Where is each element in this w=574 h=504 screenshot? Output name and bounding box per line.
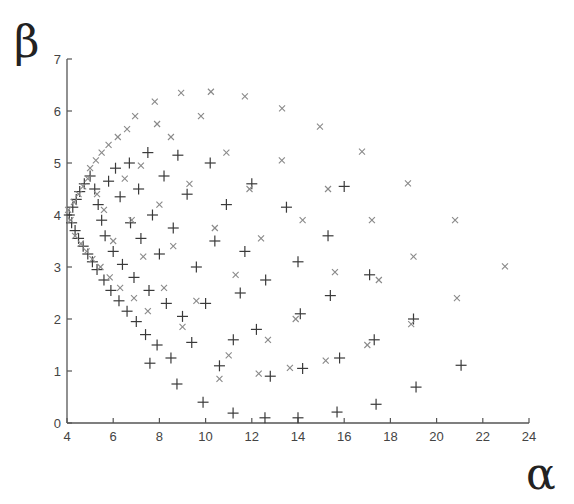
plus-marker [182,189,193,200]
plus-marker [228,408,239,419]
y-tick-label: 7 [54,52,61,67]
plus-marker [332,407,343,418]
plus-marker [154,249,165,260]
cross-marker [293,316,299,322]
plus-marker [133,184,144,195]
cross-marker [106,142,112,148]
cross-marker [145,308,151,314]
y-tick-label: 5 [54,156,61,171]
cross-marker [323,358,329,364]
cross-marker [154,121,160,127]
plus-marker [172,150,183,161]
x-tick-label: 20 [429,429,443,444]
cross-marker [279,157,285,163]
plus-marker [144,358,155,369]
cross-marker [140,254,146,260]
x-tick-label: 10 [198,429,212,444]
cross-marker [317,124,323,130]
cross-marker [193,298,199,304]
cross-marker [279,105,285,111]
plus-marker [200,298,211,309]
plus-marker [96,215,107,226]
plus-marker [161,298,172,309]
cross-marker [226,352,232,358]
plus-marker [334,353,345,364]
plus-marker [117,259,128,270]
cross-marker [152,99,158,105]
plus-marker [128,272,139,283]
cross-marker [180,324,186,330]
y-tick-label: 4 [54,208,61,223]
y-tick-label: 6 [54,104,61,119]
plus-marker [100,230,111,241]
cross-marker [242,93,248,99]
y-tick-label: 0 [54,416,61,431]
plus-marker [371,399,382,410]
x-tick-label: 18 [383,429,397,444]
plus-marker [144,285,155,296]
x-tick-label: 22 [476,429,490,444]
plus-marker [297,363,308,374]
cross-marker [502,263,508,269]
plus-marker [214,360,225,371]
plus-marker [122,306,133,317]
cross-marker [233,272,239,278]
cross-marker [369,217,375,223]
cross-marker [107,274,113,280]
plus-marker [135,233,146,244]
cross-marker [208,89,214,95]
cross-marker [376,277,382,283]
cross-marker [161,285,167,291]
plus-marker [239,246,250,257]
plus-marker [260,275,271,286]
plus-marker [168,223,179,234]
x-tick-label: 4 [63,429,70,444]
cross-marker [411,254,417,260]
plus-marker [186,337,197,348]
series-plus-markers [64,147,467,423]
cross-marker [110,238,116,244]
cross-marker [287,365,293,371]
plus-marker [87,256,98,267]
plus-marker [177,311,188,322]
cross-marker [115,134,121,140]
cross-marker [256,371,262,377]
cross-marker [156,202,162,208]
scatter-chart: 468101214161820222401234567 [0,0,574,504]
cross-marker [170,243,176,249]
x-tick-label: 8 [156,429,163,444]
plus-marker [115,191,126,202]
cross-marker [212,225,218,231]
cross-marker [265,337,271,343]
cross-marker [168,134,174,140]
cross-marker [405,180,411,186]
cross-marker [117,285,123,291]
cross-marker [138,163,144,169]
plus-marker [113,295,124,306]
cross-marker [124,126,130,132]
plus-marker [221,199,232,210]
cross-marker [364,342,370,348]
plus-marker [171,379,182,390]
y-tick-label: 1 [54,364,61,379]
plus-marker [209,236,220,247]
cross-marker [452,217,458,223]
x-tick-label: 16 [337,429,351,444]
plus-marker [142,147,153,158]
plus-marker [293,412,304,423]
plus-marker [323,230,334,241]
series-cross-markers [65,89,508,382]
cross-marker [122,176,128,182]
plus-marker [198,397,209,408]
plus-marker [228,334,239,345]
cross-marker [99,150,105,156]
cross-marker [178,90,184,96]
cross-marker [359,149,365,155]
cross-marker [454,295,460,301]
cross-marker [223,150,229,156]
cross-marker [332,269,338,275]
x-tick-label: 6 [110,429,117,444]
plus-marker [281,202,292,213]
cross-marker [216,376,222,382]
cross-marker [87,165,93,171]
